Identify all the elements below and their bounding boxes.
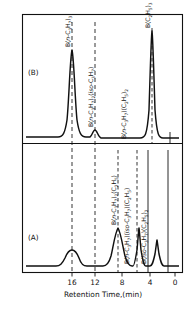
panel-tag-a: (A) <box>28 233 39 242</box>
figure-background <box>0 0 192 309</box>
x-tick-label-0: 0 <box>173 278 178 287</box>
x-tick-label-8: 8 <box>120 278 125 287</box>
panel-tag-b: (B) <box>28 68 39 77</box>
x-tick-label-12: 12 <box>90 278 99 287</box>
chromatogram-figure: 16 12 8 4 0 Retention Time,(min) (B) (A)… <box>0 0 192 309</box>
x-tick-label-16: 16 <box>67 278 77 287</box>
chromatogram-svg: 16 12 8 4 0 Retention Time,(min) (B) (A)… <box>0 0 192 309</box>
x-tick-label-4: 4 <box>148 278 153 287</box>
x-axis-title: Retention Time,(min) <box>64 290 142 299</box>
